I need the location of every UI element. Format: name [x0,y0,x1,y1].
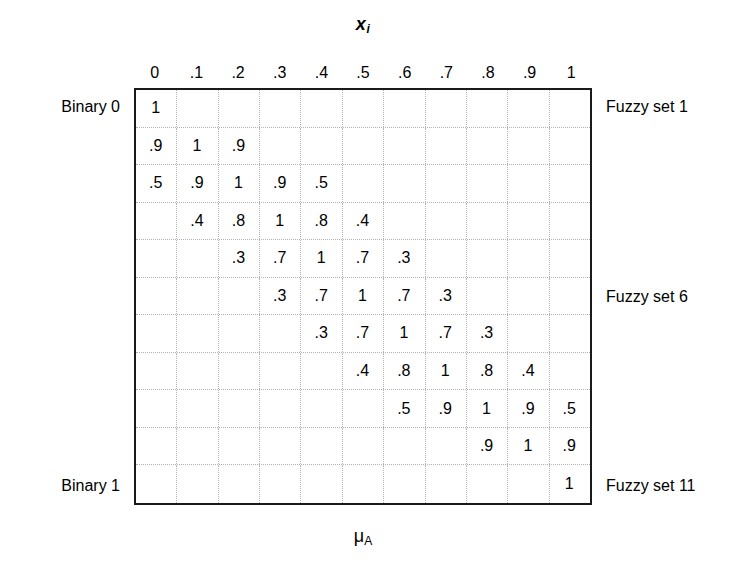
matrix-cell-r10-c5 [343,428,384,465]
column-header-0: 0 [134,62,176,84]
matrix-cell-r9-c10: .5 [550,390,590,427]
matrix-row: .91.9 [136,128,590,166]
matrix-cell-r1-c5 [343,90,384,127]
matrix-cell-r4-c3: 1 [260,203,301,240]
column-header-8: .8 [467,62,509,84]
matrix-cell-r10-c1 [177,428,218,465]
matrix-cell-r9-c5 [343,390,384,427]
matrix-cell-r2-c6 [384,128,425,165]
matrix-row: .91.9 [136,428,590,466]
matrix-cell-r3-c9 [508,165,549,202]
matrix-cell-r9-c2 [219,390,260,427]
matrix-cell-r4-c0 [136,203,177,240]
matrix-cell-r5-c5: .7 [343,240,384,277]
matrix-cell-r7-c9 [508,315,549,352]
matrix-cell-r5-c2: .3 [219,240,260,277]
matrix-cell-r2-c0: .9 [136,128,177,165]
matrix-cell-r10-c6 [384,428,425,465]
matrix-cell-r7-c0 [136,315,177,352]
matrix-cell-r1-c9 [508,90,549,127]
matrix-cell-r8-c8: .8 [467,353,508,390]
right-row-label-2: Fuzzy set 11 [606,478,696,494]
matrix-cell-r9-c1 [177,390,218,427]
matrix-cell-r7-c1 [177,315,218,352]
matrix-cell-r8-c1 [177,353,218,390]
matrix-cell-r11-c1 [177,465,218,503]
matrix-cell-r9-c3 [260,390,301,427]
column-header-7: .7 [425,62,467,84]
matrix-cell-r8-c6: .8 [384,353,425,390]
column-header-2: .2 [217,62,259,84]
matrix-cell-r6-c7: .3 [426,278,467,315]
matrix-cell-r6-c8 [467,278,508,315]
matrix-grid: 1.91.9.5.91.9.5.4.81.8.4.3.71.7.3.3.71.7… [136,90,590,503]
matrix-cell-r7-c10 [550,315,590,352]
matrix-cell-r5-c3: .7 [260,240,301,277]
matrix-cell-r10-c7 [426,428,467,465]
matrix-cell-r5-c10 [550,240,590,277]
column-header-1: .1 [176,62,218,84]
matrix-cell-r6-c1 [177,278,218,315]
matrix-cell-r6-c2 [219,278,260,315]
matrix-cell-r10-c10: .9 [550,428,590,465]
matrix-cell-r6-c10 [550,278,590,315]
bottom-axis-label-symbol: μ [354,526,364,546]
matrix-row: .3.71.7.3 [136,315,590,353]
top-axis-label-subscript: i [367,22,371,36]
matrix-cell-r4-c4: .8 [301,203,342,240]
matrix-cell-r4-c7 [426,203,467,240]
matrix-cell-r1-c10 [550,90,590,127]
matrix-cell-r9-c4 [301,390,342,427]
matrix-cell-r3-c0: .5 [136,165,177,202]
matrix-row: .3.71.7.3 [136,278,590,316]
matrix-cell-r2-c10 [550,128,590,165]
matrix-cell-r7-c5: .7 [343,315,384,352]
matrix-cell-r7-c4: .3 [301,315,342,352]
matrix-cell-r2-c2: .9 [219,128,260,165]
top-axis-label: xi [134,14,592,36]
matrix-cell-r11-c5 [343,465,384,503]
matrix-cell-r8-c9: .4 [508,353,549,390]
matrix-cell-r3-c5 [343,165,384,202]
matrix-cell-r8-c10 [550,353,590,390]
matrix-cell-r9-c6: .5 [384,390,425,427]
matrix-cell-r3-c10 [550,165,590,202]
matrix-cell-r1-c1 [177,90,218,127]
matrix-cell-r1-c6 [384,90,425,127]
matrix-cell-r5-c0 [136,240,177,277]
matrix-cell-r1-c8 [467,90,508,127]
matrix-cell-r3-c7 [426,165,467,202]
matrix-cell-r10-c9: 1 [508,428,549,465]
matrix-cell-r1-c4 [301,90,342,127]
matrix-cell-r1-c0: 1 [136,90,177,127]
matrix-cell-r7-c7: .7 [426,315,467,352]
matrix-cell-r11-c10: 1 [550,465,590,503]
fuzzy-set-matrix-figure: xi 0.1.2.3.4.5.6.7.8.91 1.91.9.5.91.9.5.… [0,0,752,578]
matrix-cell-r3-c6 [384,165,425,202]
matrix-cell-r8-c0 [136,353,177,390]
matrix-cell-r2-c8 [467,128,508,165]
matrix-row: 1 [136,90,590,128]
matrix-cell-r6-c5: 1 [343,278,384,315]
matrix-cell-r9-c0 [136,390,177,427]
matrix-cell-r11-c7 [426,465,467,503]
column-header-4: .4 [301,62,343,84]
matrix-cell-r8-c4 [301,353,342,390]
matrix-cell-r9-c8: 1 [467,390,508,427]
matrix-cell-r11-c2 [219,465,260,503]
matrix-cell-r9-c7: .9 [426,390,467,427]
column-header-row: 0.1.2.3.4.5.6.7.8.91 [134,62,592,84]
column-header-3: .3 [259,62,301,84]
matrix-cell-r5-c1 [177,240,218,277]
fuzzy-set-matrix: 1.91.9.5.91.9.5.4.81.8.4.3.71.7.3.3.71.7… [134,88,592,505]
matrix-cell-r1-c3 [260,90,301,127]
matrix-cell-r6-c3: .3 [260,278,301,315]
column-header-6: .6 [384,62,426,84]
column-header-10: 1 [550,62,592,84]
matrix-cell-r8-c5: .4 [343,353,384,390]
matrix-cell-r4-c10 [550,203,590,240]
matrix-cell-r2-c3 [260,128,301,165]
matrix-cell-r2-c5 [343,128,384,165]
matrix-cell-r4-c6 [384,203,425,240]
matrix-cell-r2-c1: 1 [177,128,218,165]
